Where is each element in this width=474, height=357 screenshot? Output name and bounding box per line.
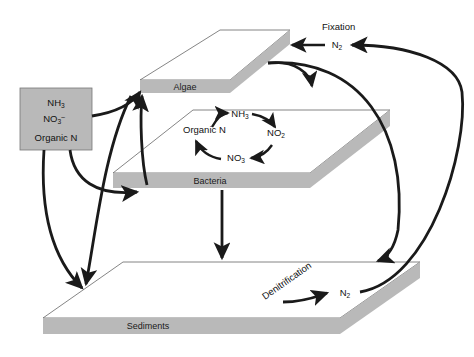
slab-bacteria: Bacteria (113, 110, 390, 188)
arrow-source-to-algae (92, 92, 140, 116)
arrow-n2-denitrification-to-fixation (352, 45, 463, 292)
bacteria-top-face (113, 110, 390, 173)
sediments-front-face (43, 318, 340, 334)
slab-label-algae: Algae (173, 82, 196, 92)
source-box-line-organic-n: Organic N (35, 132, 78, 143)
nitrogen-cycle-diagram: Sediments Bacteria Organic N NH3 NO2 NO3… (0, 0, 474, 357)
process-label-fixation: Fixation (322, 21, 355, 32)
slab-algae: Algae (140, 30, 290, 93)
slab-label-sediments: Sediments (127, 321, 170, 331)
slab-label-bacteria: Bacteria (193, 176, 226, 186)
cycle-node-organic-n: Organic N (183, 124, 226, 135)
gas-node-n2-fixation: N2 (332, 39, 343, 51)
slab-sediments: Sediments (43, 262, 420, 334)
nutrient-source-box: NH3 NO3– Organic N (20, 88, 92, 150)
